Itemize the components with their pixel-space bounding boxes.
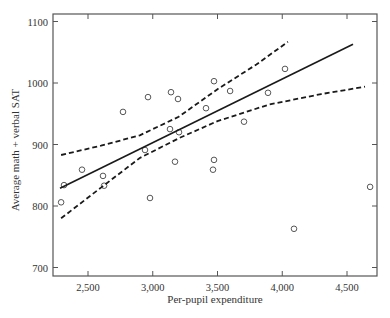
data-point [203,105,209,111]
data-point [58,200,64,206]
confidence-band-line [61,87,365,219]
data-point [241,119,247,125]
data-point [168,89,174,95]
y-axis-label: Average math + verbal SAT [9,88,21,211]
data-point [147,195,153,201]
data-point [291,226,297,232]
axes-layer: 2,5003,0003,5004,0004,500700800900100011… [27,14,377,293]
x-tick-label: 3,000 [141,282,165,293]
scatter-chart: 2,5003,0003,5004,0004,500700800900100011… [0,0,390,318]
confidence-band-line [61,42,288,155]
x-tick-label: 3,500 [206,282,230,293]
data-point [211,78,217,84]
y-tick-label: 700 [32,263,48,274]
data-point [79,167,85,173]
data-point [367,184,373,190]
x-tick-label: 2,500 [76,282,100,293]
data-point [167,126,173,132]
x-axis-label: Per-pupil expenditure [167,293,263,305]
y-tick-label: 1000 [27,78,48,89]
y-tick-label: 900 [32,140,48,151]
data-point [145,94,151,100]
data-point [175,96,181,102]
data-point [100,173,106,179]
regression-line [60,44,353,188]
y-tick-label: 1100 [27,17,48,28]
data-point [265,90,271,96]
data-point [227,88,233,94]
y-tick-label: 800 [32,201,48,212]
data-point [210,167,216,173]
data-point [120,109,126,115]
data-point [172,159,178,165]
data-point [211,157,217,163]
series-layer [58,42,373,232]
data-point [282,66,288,72]
plot-svg: 2,5003,0003,5004,0004,500700800900100011… [0,0,390,318]
x-tick-label: 4,000 [270,282,294,293]
x-tick-label: 4,500 [335,282,359,293]
